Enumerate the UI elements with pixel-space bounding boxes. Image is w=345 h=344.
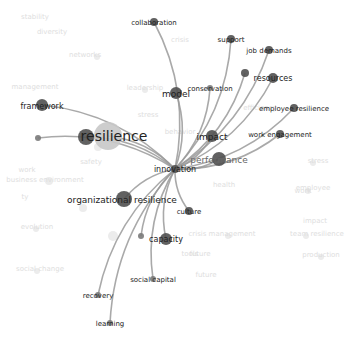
label-employee-resilience[interactable]: employee resilience [259, 105, 329, 113]
label-resources[interactable]: resources [254, 74, 293, 83]
faded-label: evolution [21, 223, 54, 231]
faded-label: networks [69, 51, 101, 59]
label-recovery[interactable]: recovery [83, 292, 114, 300]
faded-label: business environment [6, 176, 84, 184]
faded-label: safety [80, 158, 102, 166]
faded-label: future [195, 271, 216, 279]
faded-label: employee [296, 184, 331, 192]
faded-label: stability [21, 13, 49, 21]
faded-label: tools [182, 250, 199, 258]
faded-label: impact [303, 217, 327, 225]
faded-label: stress [308, 157, 329, 165]
label-framework[interactable]: framework [20, 102, 63, 111]
label-support[interactable]: support [218, 36, 245, 44]
faded-node [79, 204, 87, 212]
faded-label: stress [138, 111, 159, 119]
faded-label: social change [16, 265, 64, 273]
label-resilience[interactable]: resilience [81, 128, 148, 144]
faded-label: leadership [127, 84, 164, 92]
label-impact[interactable]: impact [197, 132, 228, 142]
node-capacity-small[interactable] [138, 233, 144, 239]
label-capacity[interactable]: capacity [149, 235, 183, 244]
node-resources-small[interactable] [241, 69, 249, 77]
faded-label: work [19, 166, 37, 174]
label-work-engagement[interactable]: work engagement [248, 131, 312, 139]
faded-label: production [302, 251, 340, 259]
label-conservation[interactable]: conservation [187, 85, 232, 93]
network-canvas[interactable]: stabilitydiversitycrisisnetworksmanageme… [0, 0, 345, 344]
label-culture[interactable]: culture [177, 208, 201, 216]
faded-label: ty [22, 193, 29, 201]
label-organizational-resilience[interactable]: organizational resilience [67, 195, 177, 205]
faded-label: crisis management [188, 230, 255, 238]
label-innovation[interactable]: innovation [154, 165, 196, 174]
faded-label: diversity [37, 28, 67, 36]
faded-label: team resilience [290, 230, 344, 238]
faded-label: health [213, 181, 235, 189]
node-left-small[interactable] [35, 135, 41, 141]
label-job-demands[interactable]: job demands [245, 47, 292, 55]
label-performance[interactable]: performance [190, 155, 248, 165]
label-learning[interactable]: learning [96, 320, 125, 328]
faded-label: crisis [171, 36, 189, 44]
label-collaboration[interactable]: collaboration [131, 19, 177, 27]
faded-label: management [12, 83, 59, 91]
label-social-capital[interactable]: social capital [130, 276, 176, 284]
label-model[interactable]: model [162, 89, 190, 99]
